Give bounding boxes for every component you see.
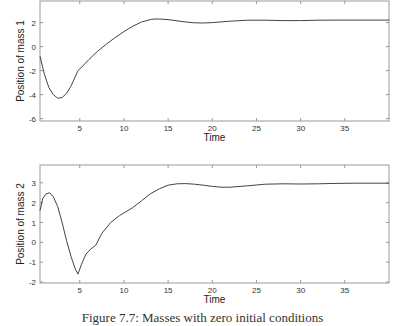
x-tick-label: 25 [252, 286, 261, 295]
y-tick-label: -2 [29, 278, 37, 287]
y-axis-label: Position of mass 2 [15, 183, 26, 265]
y-tick-label: 0 [32, 238, 37, 247]
y-tick-label: 2 [32, 199, 37, 208]
x-tick-label: 5 [78, 286, 83, 295]
x-axis-label: Time [204, 132, 226, 143]
x-axis-label: Time [204, 294, 226, 305]
x-tick-label: 30 [296, 124, 305, 133]
plot-mass-2: 5101520253035-2-10123TimePosition of mas… [15, 165, 389, 305]
y-tick-label: 2 [32, 19, 37, 28]
x-tick-label: 25 [252, 124, 261, 133]
y-tick-label: 3 [32, 179, 37, 188]
x-tick-label: 5 [78, 124, 83, 133]
x-tick-label: 10 [119, 124, 128, 133]
y-tick-label: 1 [32, 219, 37, 228]
x-tick-label: 35 [340, 286, 349, 295]
x-tick-label: 15 [164, 124, 173, 133]
x-tick-label: 10 [119, 286, 128, 295]
y-tick-label: -1 [29, 258, 37, 267]
y-tick-label: -6 [29, 115, 37, 124]
y-tick-label: -2 [29, 67, 37, 76]
y-axis-label: Position of mass 1 [15, 20, 26, 102]
y-tick-label: -4 [29, 91, 37, 100]
x-tick-label: 30 [296, 286, 305, 295]
axes-frame [40, 165, 389, 283]
figure-caption: Figure 7.7: Masses with zero initial con… [0, 310, 405, 326]
plot-mass-1: 5101520253035-6-4-202TimePosition of mas… [15, 1, 389, 143]
x-tick-label: 35 [340, 124, 349, 133]
y-tick-label: 0 [32, 43, 37, 52]
data-line [40, 183, 389, 274]
x-tick-label: 15 [164, 286, 173, 295]
axes-frame [40, 1, 389, 121]
data-line [40, 19, 389, 98]
